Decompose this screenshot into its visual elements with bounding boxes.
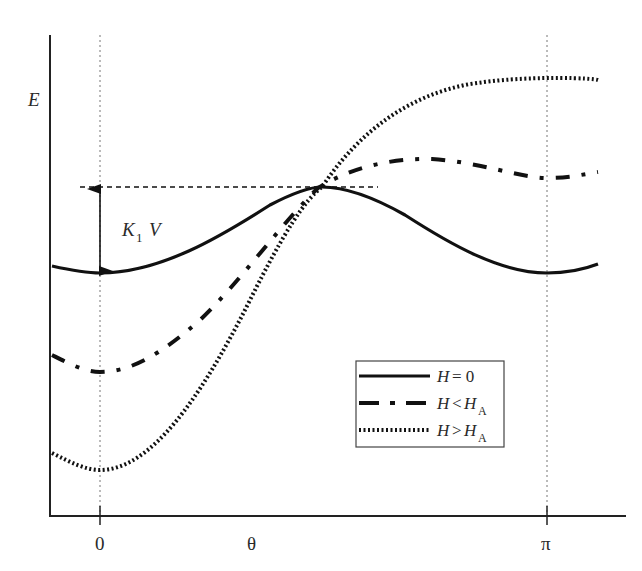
x-tick-label-pi: π (541, 533, 551, 554)
barrier-label-subscript: 1 (136, 230, 143, 245)
legend-label-h-greater-ha: H (463, 421, 478, 440)
x-axis-label-theta: θ (247, 533, 256, 554)
legend: H = 0 H < H A H > H A (356, 361, 504, 447)
barrier-label-k: K (121, 219, 136, 240)
curve-h-greater-ha (52, 78, 598, 470)
legend-label-h-greater-h: H (436, 421, 451, 440)
legend-label-h-zero-rel: = 0 (452, 367, 474, 386)
legend-label-h-less-h: H (436, 394, 451, 413)
x-tick-label-0: 0 (95, 533, 105, 554)
curve-h-less-ha (52, 159, 598, 372)
legend-label-h-less-sub: A (478, 404, 487, 418)
legend-label-h-less-rel: < (452, 394, 462, 413)
legend-label-h-zero-h: H (436, 367, 451, 386)
legend-label-h-greater-rel: > (452, 421, 462, 440)
energy-vs-angle-diagram: K 1 V E 0 θ π H = 0 H < H A H > H A (0, 0, 642, 571)
legend-label-h-greater-sub: A (478, 431, 487, 445)
y-axis-label: E (27, 89, 40, 110)
barrier-label-v: V (149, 219, 163, 240)
legend-label-h-less-ha: H (463, 394, 478, 413)
